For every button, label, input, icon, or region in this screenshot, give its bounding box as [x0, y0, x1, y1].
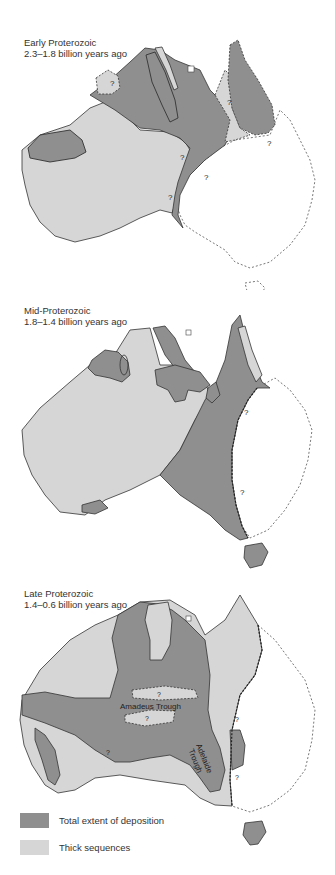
- map-title-early: Early Proterozoic 2.3–1.8 billion years …: [24, 37, 127, 59]
- legend-item-deposition: Total extent of deposition: [20, 812, 164, 828]
- svg-text:?: ?: [240, 488, 245, 497]
- map-early-proterozoic: ? ? ? ? ? ? Early Proterozoic 2.3–1.8 bi…: [0, 0, 335, 290]
- svg-text:?: ?: [145, 715, 149, 722]
- era-age-range: 1.8–1.4 billion years ago: [24, 316, 127, 327]
- svg-text:?: ?: [168, 193, 173, 202]
- svg-text:?: ?: [235, 774, 239, 781]
- deposition-swatch: [20, 813, 49, 828]
- mid-proterozoic-map-graphic: ? ?: [0, 290, 335, 580]
- legend-label: Thick sequences: [59, 842, 130, 853]
- era-name: Mid-Proterozoic: [24, 305, 127, 316]
- uncertain-marker: ?: [110, 79, 115, 88]
- era-age-range: 1.4–0.6 billion years ago: [24, 599, 127, 610]
- map-mid-proterozoic: ? ? Mid-Proterozoic 1.8–1.4 billion year…: [0, 290, 335, 580]
- era-name: Late Proterozoic: [24, 588, 127, 599]
- svg-text:?: ?: [227, 98, 232, 107]
- svg-text:?: ?: [106, 749, 110, 756]
- era-age-range: 2.3–1.8 billion years ago: [24, 48, 127, 59]
- svg-text:?: ?: [204, 173, 209, 182]
- map-title-mid: Mid-Proterozoic 1.8–1.4 billion years ag…: [24, 305, 127, 327]
- legend-label: Total extent of deposition: [59, 815, 164, 826]
- svg-text:?: ?: [267, 139, 272, 148]
- era-name: Early Proterozoic: [24, 37, 127, 48]
- svg-text:?: ?: [157, 691, 161, 698]
- thick-sequences-swatch: [20, 840, 49, 855]
- map-title-late: Late Proterozoic 1.4–0.6 billion years a…: [24, 588, 127, 610]
- legend: Total extent of deposition Thick sequenc…: [20, 812, 164, 866]
- svg-text:?: ?: [180, 153, 185, 162]
- svg-text:?: ?: [244, 408, 249, 417]
- amadeus-trough-label: Amadeus Trough: [120, 702, 181, 711]
- legend-item-thick-sequences: Thick sequences: [20, 839, 164, 855]
- svg-text:?: ?: [235, 716, 239, 723]
